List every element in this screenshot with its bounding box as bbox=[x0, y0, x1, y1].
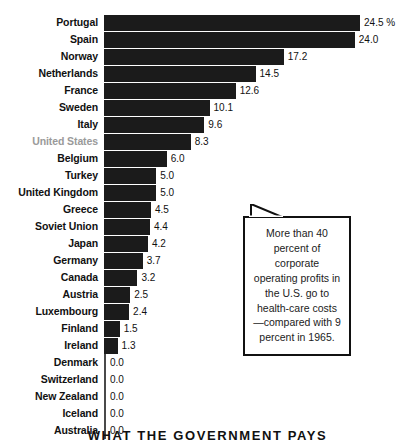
bar-track: 5.0 bbox=[104, 167, 415, 184]
bar-track: 14.5 bbox=[104, 65, 415, 82]
bar-track: 9.6 bbox=[104, 116, 415, 133]
bar-category-label: Luxembourg bbox=[0, 306, 104, 317]
bar-category-label: Iceland bbox=[0, 408, 104, 419]
bar-track: 0.0 bbox=[104, 371, 415, 388]
bar-chart-row: Luxembourg2.4 bbox=[0, 303, 415, 320]
bar bbox=[104, 236, 148, 252]
bar-chart-row: Italy9.6 bbox=[0, 116, 415, 133]
chart-title: WHAT THE GOVERNMENT PAYS bbox=[0, 428, 415, 442]
callout-text: More than 40 percent of corporate operat… bbox=[243, 216, 351, 356]
bar-category-label: France bbox=[0, 85, 104, 96]
bar-value-label: 8.3 bbox=[191, 137, 209, 147]
bar-chart-row: Finland1.5 bbox=[0, 320, 415, 337]
bar-chart-row: Sweden10.1 bbox=[0, 99, 415, 116]
bar-value-label: 4.2 bbox=[148, 239, 166, 249]
bar-chart-row: Switzerland0.0 bbox=[0, 371, 415, 388]
bar-chart-row: Spain24.0 bbox=[0, 31, 415, 48]
bar-value-label: 0.0 bbox=[106, 392, 124, 402]
bar-value-label: 10.1 bbox=[210, 103, 233, 113]
bar bbox=[104, 117, 204, 133]
bar bbox=[104, 202, 151, 218]
bar-chart-figure: Portugal24.5 %Spain24.0Norway17.2Netherl… bbox=[0, 0, 415, 442]
bar bbox=[104, 100, 210, 116]
bar bbox=[104, 321, 120, 337]
bar-value-label: 4.5 bbox=[151, 205, 169, 215]
bar-category-label: Greece bbox=[0, 204, 104, 215]
bar bbox=[104, 287, 130, 303]
bar-track: 5.0 bbox=[104, 184, 415, 201]
bar bbox=[104, 219, 150, 235]
bar-value-label: 2.4 bbox=[129, 307, 147, 317]
callout-annotation: More than 40 percent of corporate operat… bbox=[243, 216, 351, 356]
bar-category-label: Ireland bbox=[0, 340, 104, 351]
bar-category-label: Portugal bbox=[0, 17, 104, 28]
bar bbox=[104, 49, 284, 65]
bar bbox=[104, 134, 191, 150]
bar-value-label: 3.2 bbox=[137, 273, 155, 283]
bar-track: 12.6 bbox=[104, 82, 415, 99]
bar-chart-rows: Portugal24.5 %Spain24.0Norway17.2Netherl… bbox=[0, 14, 415, 439]
bar-chart-row: Denmark0.0 bbox=[0, 354, 415, 371]
bar-value-label: 6.0 bbox=[167, 154, 185, 164]
bar-value-label: 3.7 bbox=[143, 256, 161, 266]
bar-category-label: United Kingdom bbox=[0, 187, 104, 198]
bar-category-label: Netherlands bbox=[0, 68, 104, 79]
bar-chart-row: New Zealand0.0 bbox=[0, 388, 415, 405]
bar-track: 0.0 bbox=[104, 405, 415, 422]
bar bbox=[104, 253, 143, 269]
bar-value-label: 14.5 bbox=[256, 69, 279, 79]
bar bbox=[104, 83, 236, 99]
bar-chart-row: Portugal24.5 % bbox=[0, 14, 415, 31]
bar-chart-row: France12.6 bbox=[0, 82, 415, 99]
bar bbox=[104, 304, 129, 320]
bar bbox=[104, 151, 167, 167]
bar bbox=[104, 270, 137, 286]
bar-value-label: 0.0 bbox=[106, 409, 124, 419]
bar bbox=[104, 15, 360, 31]
bar-category-label: Germany bbox=[0, 255, 104, 266]
bar-category-label: Sweden bbox=[0, 102, 104, 113]
bar-category-label: Austria bbox=[0, 289, 104, 300]
bar-chart-row: Iceland0.0 bbox=[0, 405, 415, 422]
bar-chart-row: Japan4.2 bbox=[0, 235, 415, 252]
bar-category-label: Turkey bbox=[0, 170, 104, 181]
bar-chart-row: United States8.3 bbox=[0, 133, 415, 150]
bar-chart-row: Soviet Union4.4 bbox=[0, 218, 415, 235]
bar-track: 17.2 bbox=[104, 48, 415, 65]
bar-track: 8.3 bbox=[104, 133, 415, 150]
bar-track: 0.0 bbox=[104, 388, 415, 405]
bar-chart-row: Belgium6.0 bbox=[0, 150, 415, 167]
bar-track: 24.5 % bbox=[104, 14, 415, 31]
callout-tail-icon bbox=[249, 204, 283, 217]
bar-value-label: 24.0 bbox=[355, 35, 378, 45]
bar-category-label: Denmark bbox=[0, 357, 104, 368]
bar-chart-row: Netherlands14.5 bbox=[0, 65, 415, 82]
bar-category-label: Finland bbox=[0, 323, 104, 334]
bar-chart-row: Ireland1.3 bbox=[0, 337, 415, 354]
bar-chart-row: Greece4.5 bbox=[0, 201, 415, 218]
bar-chart-row: Canada3.2 bbox=[0, 269, 415, 286]
bar-value-label: 5.0 bbox=[156, 171, 174, 181]
bar-chart-row: Turkey5.0 bbox=[0, 167, 415, 184]
bar bbox=[104, 32, 355, 48]
bar bbox=[104, 338, 118, 354]
bar-chart-row: Austria2.5 bbox=[0, 286, 415, 303]
bar-track: 24.0 bbox=[104, 31, 415, 48]
bar-value-label: 4.4 bbox=[150, 222, 168, 232]
bar-value-label: 0.0 bbox=[106, 375, 124, 385]
bar-track: 10.1 bbox=[104, 99, 415, 116]
bar bbox=[104, 168, 156, 184]
bar-category-label: Spain bbox=[0, 34, 104, 45]
bar-category-label: Canada bbox=[0, 272, 104, 283]
bar-category-label: New Zealand bbox=[0, 391, 104, 402]
bar-category-label: Norway bbox=[0, 51, 104, 62]
bar bbox=[104, 66, 256, 82]
bar-chart-row: Norway17.2 bbox=[0, 48, 415, 65]
bar-value-label: 0.0 bbox=[106, 358, 124, 368]
bar-value-label: 1.3 bbox=[118, 341, 136, 351]
bar-category-label: Soviet Union bbox=[0, 221, 104, 232]
bar-track: 0.0 bbox=[104, 354, 415, 371]
bar-category-label: Japan bbox=[0, 238, 104, 249]
bar-value-label: 1.5 bbox=[120, 324, 138, 334]
bar-category-label: Switzerland bbox=[0, 374, 104, 385]
